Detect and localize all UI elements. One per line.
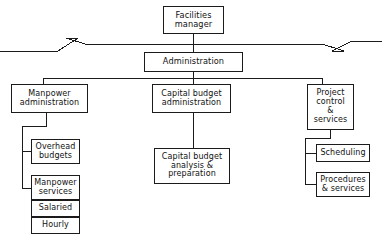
node-procedures-services[interactable]: Procedures & services [316,172,370,197]
node-facilities-manager[interactable]: Facilities manager [163,6,224,34]
node-capital-budget-analysis[interactable]: Capital budget analysis & preparation [154,148,230,184]
node-hourly[interactable]: Hourly [31,217,80,234]
node-capital-budget-administration[interactable]: Capital budget administration [152,84,231,113]
node-manpower-services[interactable]: Manpower services [31,175,80,200]
org-chart: Facilities manager Administration Manpow… [0,0,382,244]
node-project-control-services[interactable]: Project control & services [307,84,354,130]
break-symbol-left [58,38,85,51]
node-administration[interactable]: Administration [144,52,243,72]
break-symbol-right [322,41,352,51]
node-manpower-administration[interactable]: Manpower administration [11,84,88,113]
node-scheduling[interactable]: Scheduling [316,144,370,162]
node-overhead-budgets[interactable]: Overhead budgets [31,139,80,164]
node-salaried[interactable]: Salaried [31,200,80,217]
